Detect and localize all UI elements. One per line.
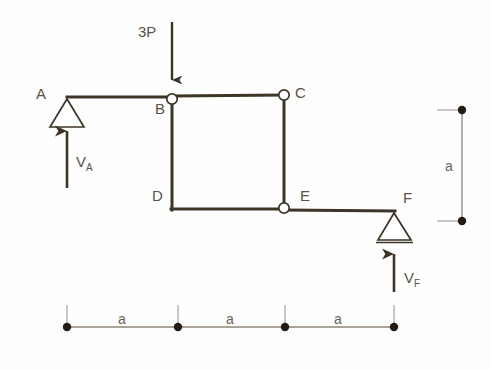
dimension-tick-dot: [390, 323, 398, 331]
load-label-3P: 3P: [138, 24, 156, 39]
support-F-roller-icon: [376, 213, 413, 243]
hinge-C-icon: [279, 90, 289, 100]
joint-label-F: F: [403, 190, 412, 205]
dimension-tick-dot: [174, 323, 182, 331]
member-BC: [172, 95, 284, 96]
joint-label-B: B: [155, 101, 165, 116]
hinge-B-icon: [167, 94, 177, 104]
reaction-label-VA-text: V: [76, 153, 86, 170]
reaction-label-VF-text: V: [404, 269, 414, 286]
reaction-label-VA-subscript: A: [86, 162, 93, 173]
member-EF: [284, 210, 395, 211]
joint-label-A: A: [36, 86, 46, 101]
dimension-label-height: a: [445, 159, 453, 173]
dimension-tick-dot: [458, 106, 466, 114]
dimension-tick-dot: [63, 323, 71, 331]
joint-label-D: D: [152, 188, 163, 203]
joint-label-C: C: [295, 85, 306, 100]
dimension-tick-dot: [281, 323, 289, 331]
hinges: [167, 90, 289, 213]
support-A-pin-icon: [50, 99, 84, 127]
reaction-label-VA: VA: [76, 154, 93, 175]
structural-diagram: A B C D E F 3P VA VF a a a a: [0, 0, 491, 369]
hinge-E-icon: [279, 203, 289, 213]
joint-label-E: E: [300, 188, 310, 203]
dimension-label-span-3: a: [334, 312, 342, 326]
frame-drawing: [0, 0, 491, 369]
dimension-label-span-1: a: [118, 312, 126, 326]
dimension-tick-dot: [458, 217, 466, 225]
reaction-label-VF: VF: [404, 270, 420, 291]
frame-members: [67, 95, 395, 211]
reaction-label-VF-subscript: F: [414, 278, 420, 289]
dimension-label-span-2: a: [226, 312, 234, 326]
